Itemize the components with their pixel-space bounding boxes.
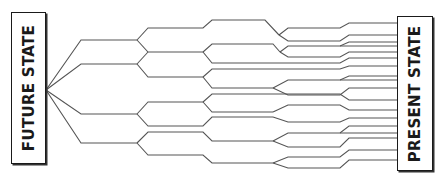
- future-state-label: FUTURE STATE: [20, 25, 38, 151]
- branch-path: [273, 66, 397, 69]
- branch-path: [203, 69, 273, 77]
- branch-path: [46, 90, 137, 143]
- branch-path: [273, 160, 397, 168]
- branch-path: [279, 23, 397, 35]
- branch-path: [203, 102, 273, 112]
- branch-path: [273, 117, 397, 122]
- branch-path: [203, 52, 273, 63]
- branch-path: [273, 58, 397, 63]
- branch-path: [279, 35, 397, 41]
- present-state-box: PRESENT STATE: [397, 16, 433, 171]
- branch-path: [203, 94, 273, 102]
- branch-path: [137, 64, 203, 77]
- branch-path: [273, 76, 397, 88]
- pathways-diagram: FUTURE STATE PRESENT STATE: [0, 0, 438, 181]
- future-state-box: FUTURE STATE: [11, 12, 46, 164]
- branch-path: [137, 52, 148, 64]
- branch-path: [203, 44, 280, 52]
- branch-path: [137, 143, 273, 163]
- branch-path: [273, 105, 397, 112]
- present-state-label: PRESENT STATE: [406, 25, 424, 162]
- branch-path: [280, 42, 397, 52]
- branch-path: [273, 150, 397, 163]
- branch-path: [273, 138, 397, 147]
- branch-path: [203, 77, 273, 88]
- branch-path: [137, 40, 203, 52]
- branch-lines: [0, 0, 438, 181]
- branch-path: [137, 20, 279, 40]
- branch-path: [137, 114, 273, 126]
- branch-path: [46, 64, 137, 90]
- branch-path: [137, 102, 203, 114]
- branch-path: [137, 132, 273, 143]
- branch-path: [280, 52, 397, 57]
- branch-path: [46, 40, 137, 90]
